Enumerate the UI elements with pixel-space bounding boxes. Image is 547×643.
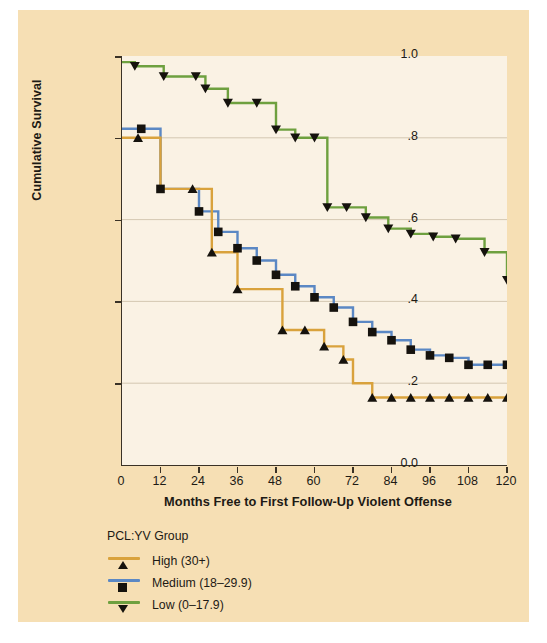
triangle-down-icon (118, 605, 128, 613)
y-tick-mark (115, 383, 121, 385)
censor-marker (502, 276, 507, 285)
x-tick-mark (391, 467, 393, 473)
x-tick-label: 48 (255, 474, 295, 488)
legend-key (106, 573, 142, 593)
legend-line-swatch (108, 601, 140, 604)
plot-area (121, 56, 507, 466)
x-tick-label: 36 (217, 474, 257, 488)
censor-marker (368, 328, 377, 337)
figure-root: Cumulative Survival 0.0.2.4.6.81.0 01224… (0, 0, 547, 643)
x-tick-label: 60 (294, 474, 334, 488)
legend-label: Medium (18–29.9) (142, 576, 252, 590)
y-tick-mark (115, 220, 121, 222)
y-tick-label: .2 (378, 374, 418, 388)
y-axis-title: Cumulative Survival (27, 55, 47, 225)
legend-title: PCL:YV Group (106, 529, 406, 543)
y-tick-mark (115, 56, 121, 58)
censor-marker (329, 303, 338, 312)
legend-entry: Medium (18–29.9) (106, 572, 406, 594)
censor-marker (426, 351, 435, 360)
legend-label: Low (0–17.9) (142, 598, 224, 612)
y-tick-label: 0.0 (378, 456, 418, 470)
censor-marker (214, 228, 223, 237)
x-tick-mark (314, 467, 316, 473)
censor-marker (503, 361, 507, 370)
censor-marker (310, 293, 319, 302)
censor-marker (349, 318, 358, 327)
censor-marker (291, 282, 300, 291)
x-tick-label: 84 (371, 474, 411, 488)
x-tick-label: 120 (486, 474, 526, 488)
x-tick-label: 108 (448, 474, 488, 488)
series-step-line-0 (122, 62, 507, 280)
x-tick-label: 0 (101, 474, 141, 488)
censor-marker (137, 125, 146, 134)
censor-marker (233, 244, 242, 253)
x-tick-mark (352, 467, 354, 473)
figure-page-background: Cumulative Survival 0.0.2.4.6.81.0 01224… (18, 10, 529, 622)
x-tick-mark (198, 467, 200, 473)
y-tick-label: .6 (378, 211, 418, 225)
censor-marker (445, 354, 454, 363)
x-tick-label: 72 (332, 474, 372, 488)
x-tick-label: 96 (409, 474, 449, 488)
legend-line-swatch (108, 557, 140, 560)
y-tick-label: .4 (378, 292, 418, 306)
censor-marker (464, 361, 473, 370)
censor-marker (272, 271, 281, 280)
x-tick-label: 12 (140, 474, 180, 488)
legend-entry: High (30+) (106, 550, 406, 572)
square-icon (118, 583, 127, 592)
y-axis-title-text: Cumulative Survival (30, 79, 44, 200)
y-tick-label: .8 (378, 129, 418, 143)
y-tick-mark (115, 138, 121, 140)
survival-curves-svg (122, 56, 507, 465)
triangle-up-icon (118, 561, 128, 569)
censor-marker (483, 361, 492, 370)
x-tick-mark (429, 467, 431, 473)
y-tick-label: 1.0 (378, 47, 418, 61)
censor-marker (156, 185, 165, 194)
x-tick-mark (468, 467, 470, 473)
legend-entry: Low (0–17.9) (106, 594, 406, 616)
legend-key (106, 551, 142, 571)
legend-line-swatch (108, 579, 140, 582)
x-tick-mark (160, 467, 162, 473)
y-tick-mark (115, 301, 121, 303)
x-tick-mark (275, 467, 277, 473)
legend-key (106, 595, 142, 615)
censor-marker (406, 345, 415, 354)
legend-entries: High (30+)Medium (18–29.9)Low (0–17.9) (106, 550, 406, 616)
censor-marker (252, 256, 261, 265)
x-tick-mark (237, 467, 239, 473)
x-axis-title: Months Free to First Follow-Up Violent O… (78, 494, 538, 509)
censor-marker (387, 336, 396, 345)
legend: PCL:YV Group High (30+)Medium (18–29.9)L… (106, 529, 406, 616)
censor-marker (195, 207, 204, 216)
x-tick-mark (506, 467, 508, 473)
x-tick-label: 24 (178, 474, 218, 488)
legend-label: High (30+) (142, 554, 210, 568)
